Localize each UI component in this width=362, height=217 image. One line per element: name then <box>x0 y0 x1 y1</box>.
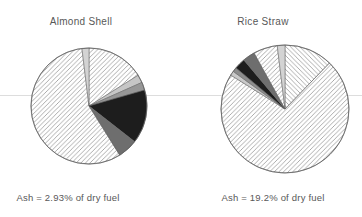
pie-charts-canvas <box>0 0 362 217</box>
pie-left <box>31 48 147 164</box>
left-pie-caption: Ash = 2.93% of dry fuel <box>8 192 128 204</box>
right-pie-title: Rice Straw <box>213 16 313 28</box>
figure-ash-composition: Almond Shell Rice Straw Ash = 2.93% of d… <box>0 0 362 217</box>
pie-right <box>221 45 349 173</box>
pies-layer <box>31 45 349 173</box>
right-pie-caption: Ash = 19.2% of dry fuel <box>213 192 333 204</box>
left-pie-title: Almond Shell <box>31 16 131 28</box>
